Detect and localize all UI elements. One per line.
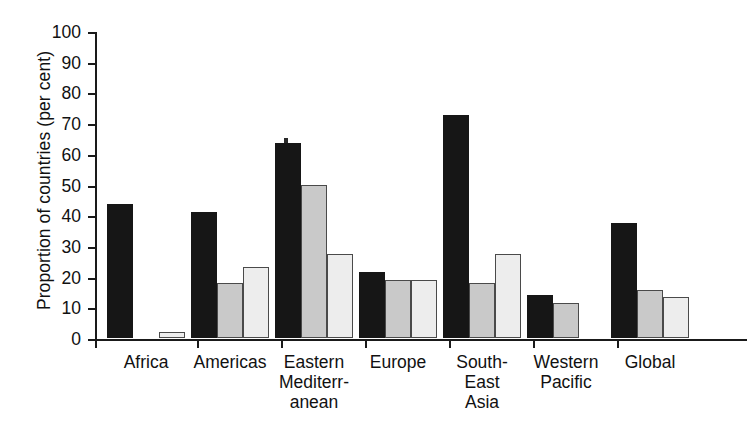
category-label-line: Mediterr- xyxy=(254,372,374,392)
plot-area: 1009080706050403020100 xyxy=(95,32,747,340)
y-tick-label-70: 70 xyxy=(62,116,81,134)
category-label-line: Asia xyxy=(422,392,542,412)
y-tick-label-40: 40 xyxy=(62,208,81,226)
bar xyxy=(327,254,353,338)
y-tick-label-10: 10 xyxy=(62,301,81,319)
bar xyxy=(385,280,411,338)
y-tick-60: 60 xyxy=(88,155,95,157)
x-tick-origin xyxy=(95,341,97,348)
bar-group xyxy=(275,31,353,338)
x-axis-line xyxy=(95,339,747,341)
bar xyxy=(359,272,385,338)
bar xyxy=(495,254,521,338)
y-tick-0: 0 xyxy=(88,339,95,341)
bar-group xyxy=(359,31,437,338)
bar xyxy=(637,290,663,338)
y-tick-20: 20 xyxy=(88,278,95,280)
bar-chart: Proportion of countries (per cent) 10090… xyxy=(0,0,749,422)
x-tick xyxy=(449,341,451,348)
x-tick xyxy=(365,341,367,348)
y-tick-40: 40 xyxy=(88,216,95,218)
bar xyxy=(411,280,437,338)
y-tick-30: 30 xyxy=(88,247,95,249)
category-label-line: Global xyxy=(590,352,710,372)
y-tick-label-50: 50 xyxy=(62,178,81,196)
bar xyxy=(469,283,495,338)
y-tick-label-20: 20 xyxy=(62,270,81,288)
bar-group xyxy=(191,31,269,338)
bar-group xyxy=(611,31,689,338)
y-tick-label-80: 80 xyxy=(62,86,81,104)
x-tick xyxy=(533,341,535,348)
bar xyxy=(663,297,689,338)
y-tick-label-0: 0 xyxy=(71,331,81,349)
bar xyxy=(159,332,185,338)
y-axis-line xyxy=(95,32,97,341)
y-tick-100: 100 xyxy=(88,32,95,34)
bar xyxy=(217,283,243,338)
bar xyxy=(553,303,579,338)
y-tick-70: 70 xyxy=(88,124,95,126)
category-label-line: Pacific xyxy=(506,372,626,392)
scan-artifact-speck xyxy=(284,138,288,143)
bar xyxy=(527,295,553,338)
y-tick-label-100: 100 xyxy=(52,24,81,42)
y-tick-50: 50 xyxy=(88,186,95,188)
bar xyxy=(243,267,269,338)
bar-group xyxy=(443,31,521,338)
bar xyxy=(301,185,327,339)
bar-group xyxy=(527,31,605,338)
category-label-line: anean xyxy=(254,392,374,412)
y-tick-label-90: 90 xyxy=(62,55,81,73)
x-tick xyxy=(617,341,619,348)
y-tick-label-60: 60 xyxy=(62,147,81,165)
y-axis-title: Proportion of countries (per cent) xyxy=(34,16,55,346)
y-tick-90: 90 xyxy=(88,63,95,65)
bar xyxy=(275,143,301,338)
x-tick xyxy=(197,341,199,348)
bar xyxy=(611,223,637,338)
category-label-global: Global xyxy=(590,352,710,372)
x-tick xyxy=(281,341,283,348)
bar-group xyxy=(107,31,185,338)
bar xyxy=(191,212,217,338)
bar xyxy=(443,115,469,338)
y-tick-80: 80 xyxy=(88,93,95,95)
bar xyxy=(107,204,133,338)
y-tick-label-30: 30 xyxy=(62,239,81,257)
y-tick-10: 10 xyxy=(88,308,95,310)
